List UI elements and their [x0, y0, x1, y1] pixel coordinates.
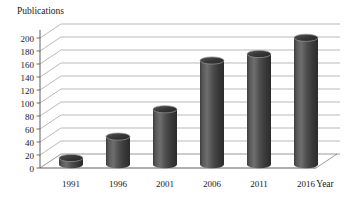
y-tick-label: 180: [21, 47, 35, 57]
y-axis-title: Publications: [17, 6, 64, 16]
bar-2011: [247, 50, 271, 168]
chart-canvas: 200 180 160 140 120 100 80 60 40 20 0: [0, 0, 347, 201]
y-tick-label: 40: [25, 138, 35, 148]
x-tick-label: 1996: [109, 179, 128, 189]
y-tick-label: 20: [25, 151, 35, 161]
y-tick-label: 0: [30, 164, 35, 174]
y-tick-label: 100: [21, 99, 35, 109]
y-axis: [37, 30, 41, 168]
x-tick-label: 2006: [203, 179, 222, 189]
bar-2006: [200, 57, 224, 168]
y-tick-label: 140: [21, 73, 35, 83]
bar-2016: [294, 34, 318, 168]
y-tick-label: 60: [25, 125, 35, 135]
y-tick-label: 120: [21, 86, 35, 96]
x-tick-label: 2011: [250, 179, 268, 189]
y-tick-label: 200: [21, 34, 35, 44]
x-tick-label: 1991: [62, 179, 80, 189]
x-tick-label: 2016: [297, 179, 316, 189]
x-tick-label: 2001: [156, 179, 174, 189]
x-axis-tick-labels: 1991 1996 2001 2006 2011 2016: [62, 179, 316, 189]
x-axis-title: Year: [316, 179, 334, 189]
bar-1996: [106, 133, 130, 168]
y-axis-tick-labels: 200 180 160 140 120 100 80 60 40 20 0: [21, 34, 35, 174]
y-tick-label: 160: [21, 60, 35, 70]
bar-2001: [153, 106, 177, 169]
bar-1991: [59, 154, 83, 168]
publications-bar-chart: 200 180 160 140 120 100 80 60 40 20 0: [0, 0, 347, 201]
y-tick-label: 80: [25, 112, 35, 122]
